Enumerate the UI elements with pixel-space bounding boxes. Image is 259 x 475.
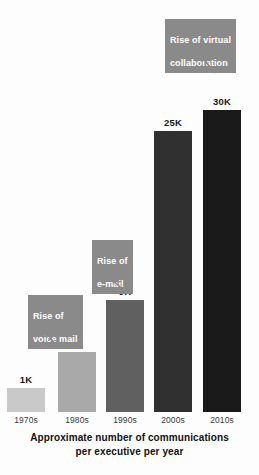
annotation-voice-mail-leader: [34, 324, 60, 348]
x-tick-1990s: 1990s: [103, 415, 147, 425]
plot-area: 1K 4K 9K 25K 30K Rise of voice mail Rise…: [0, 0, 259, 420]
bar-2000s: [154, 131, 192, 412]
annotation-e-mail-leader: [97, 269, 125, 291]
x-tick-1970s: 1970s: [4, 415, 48, 425]
chart-caption: Approximate number of communications per…: [0, 431, 259, 458]
x-tick-2000s: 2000s: [151, 415, 195, 425]
bar-value-1970s: 1K: [7, 374, 45, 385]
annotation-e-mail-line1: Rise of: [97, 256, 128, 266]
x-tick-2010s: 2010s: [200, 415, 244, 425]
bar-1970s: [7, 388, 45, 412]
annotation-virtual-collaboration-leader: [190, 48, 220, 76]
annotation-virtual-collaboration-line1: Rise of virtual: [170, 35, 231, 45]
bar-value-2010s: 30K: [203, 96, 241, 107]
annotation-voice-mail-line1: Rise of: [33, 311, 64, 321]
bar-value-2000s: 25K: [154, 117, 192, 128]
bar-1980s: [58, 352, 96, 412]
caption-line-2: per executive per year: [0, 445, 259, 459]
chart-figure: 1K 4K 9K 25K 30K Rise of voice mail Rise…: [0, 0, 259, 475]
x-tick-1980s: 1980s: [55, 415, 99, 425]
bar-1990s: [106, 300, 144, 412]
caption-line-1: Approximate number of communications: [0, 431, 259, 445]
bar-2010s: [203, 110, 241, 412]
